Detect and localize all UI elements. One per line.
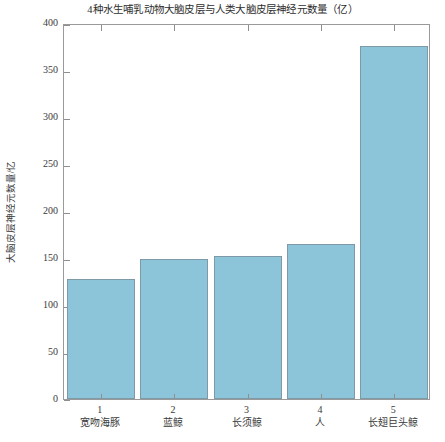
x-axis-tick	[101, 394, 102, 399]
y-axis-tick	[64, 400, 70, 401]
top-axis-tick	[174, 25, 175, 31]
y-axis-tick	[64, 213, 70, 214]
x-axis-tick	[394, 394, 395, 399]
y-axis-title: 大脑皮层神经元数量/亿	[2, 24, 18, 400]
bar-2	[140, 259, 208, 399]
y-axis-tick-label: 50	[18, 346, 58, 357]
y-axis-tick-label: 150	[18, 252, 58, 263]
y-axis-tick-label: 400	[18, 17, 58, 28]
top-axis-tick	[394, 25, 395, 31]
bar-5	[360, 46, 428, 399]
chart-title: 4种水生哺乳动物大脑皮层与人类大脑皮层神经元数量（亿）	[0, 1, 445, 16]
bar-chart: 4种水生哺乳动物大脑皮层与人类大脑皮层神经元数量（亿） 大脑皮层神经元数量/亿 …	[0, 0, 445, 442]
y-axis-tick-label: 350	[18, 64, 58, 75]
y-axis-tick-label: 250	[18, 158, 58, 169]
bar-4	[287, 244, 355, 399]
y-axis-tick	[64, 260, 70, 261]
y-axis-tick	[64, 166, 70, 167]
y-axis-title-text: 大脑皮层神经元数量/亿	[3, 161, 17, 264]
y-axis-tick	[64, 25, 70, 26]
y-axis-tick-label: 100	[18, 299, 58, 310]
y-axis-tick	[64, 119, 70, 120]
x-axis-tick	[321, 394, 322, 399]
y-axis-tick	[64, 72, 70, 73]
plot-inner	[64, 25, 429, 399]
top-axis-tick	[321, 25, 322, 31]
bar-3	[214, 256, 282, 399]
bar-1	[67, 279, 135, 399]
top-axis-tick	[248, 25, 249, 31]
x-axis-category-5: 5长翅巨头鲸	[343, 404, 443, 429]
x-axis-category-name: 长翅巨头鲸	[343, 416, 443, 429]
y-axis-tick-label: 0	[18, 393, 58, 404]
x-axis-tick	[248, 394, 249, 399]
top-axis-tick	[101, 25, 102, 31]
y-axis-tick-label: 200	[18, 205, 58, 216]
plot-area	[63, 24, 430, 400]
x-axis-category-number: 5	[343, 404, 443, 416]
y-axis-tick-label: 300	[18, 111, 58, 122]
x-axis-tick	[174, 394, 175, 399]
